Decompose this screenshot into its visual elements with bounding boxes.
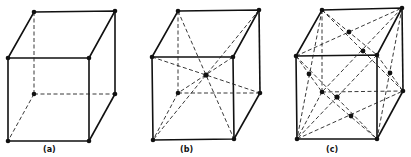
cubic-lattice-diagram [0,0,411,157]
back-right-edge [259,10,260,93]
atoms [6,9,118,144]
top-face-edges [152,10,259,57]
figure-label-b: (b) [180,145,193,154]
front-face [8,58,89,141]
bottom-right-edge [234,93,260,139]
figure-label-c: (c) [326,145,338,154]
cube-b [150,8,263,143]
atoms [150,8,263,143]
hidden-edge [8,94,34,141]
cube-c [294,6,406,142]
atoms [294,6,406,142]
body-center-atom [203,72,208,77]
cube-a [6,9,118,144]
front-face [152,57,234,140]
bottom-right-edge [89,94,115,141]
top-face-edges [8,11,115,58]
figure-label-a: (a) [43,145,56,154]
